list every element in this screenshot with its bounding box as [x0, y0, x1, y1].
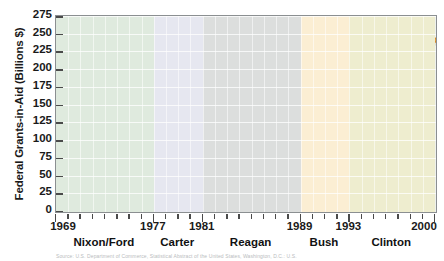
- x-tick-mark-minor: [128, 214, 129, 219]
- x-tick-mark-minor: [275, 214, 276, 219]
- y-tick-label: 225: [12, 43, 52, 55]
- gridline-vertical: [105, 16, 106, 212]
- y-tick-label: 125: [12, 114, 52, 126]
- gridline-horizontal: [56, 176, 436, 177]
- gridline-horizontal: [56, 122, 436, 123]
- era-label-nixon-ford: Nixon/Ford: [74, 236, 135, 248]
- x-tick-mark-minor: [79, 214, 80, 219]
- x-tick-mark-minor: [373, 214, 374, 219]
- source-caption: Source: U.S. Department of Commerce, Sta…: [56, 253, 297, 259]
- plot-area: [55, 15, 437, 213]
- gridline-vertical: [166, 16, 167, 212]
- gridline-vertical: [68, 16, 69, 212]
- gridline-vertical: [411, 16, 412, 212]
- y-tick-label: 200: [12, 61, 52, 73]
- x-tick-mark-minor: [238, 214, 239, 219]
- era-label-reagan: Reagan: [230, 236, 272, 248]
- x-tick-mark-minor: [67, 214, 68, 219]
- era-label-clinton: Clinton: [371, 236, 411, 248]
- gridline-vertical: [276, 16, 277, 212]
- x-tick-mark-minor: [336, 214, 337, 219]
- gridline-vertical: [117, 16, 118, 212]
- x-tick-mark-minor: [165, 214, 166, 219]
- x-tick-mark-minor: [189, 214, 190, 219]
- x-tick-mark-minor: [324, 214, 325, 219]
- x-tick-label: 1993: [336, 220, 362, 232]
- gridline-horizontal: [56, 193, 436, 194]
- y-tick-mark: [56, 51, 63, 53]
- gridline-vertical: [398, 16, 399, 212]
- gridline-vertical: [190, 16, 191, 212]
- gridline-vertical: [203, 16, 204, 212]
- era-label-bush: Bush: [310, 236, 339, 248]
- x-tick-mark-minor: [141, 214, 142, 219]
- gridline-vertical: [337, 16, 338, 212]
- y-tick-mark: [56, 34, 63, 36]
- chart-figure: Federal Grants-in-Aid (Billions $) 02550…: [0, 0, 444, 261]
- y-tick-label: 25: [12, 185, 52, 197]
- y-tick-label: 0: [12, 203, 52, 215]
- gridline-vertical: [325, 16, 326, 212]
- y-tick-label: 75: [12, 150, 52, 162]
- gridline-vertical: [423, 16, 424, 212]
- x-tick-mark-minor: [361, 214, 362, 219]
- y-tick-label: 175: [12, 79, 52, 91]
- x-tick-label: 1989: [287, 220, 313, 232]
- x-tick-mark-minor: [92, 214, 93, 219]
- gridline-vertical: [301, 16, 302, 212]
- x-tick-label: 1969: [50, 220, 76, 232]
- gridline-horizontal: [56, 105, 436, 106]
- gridline-vertical: [142, 16, 143, 212]
- y-tick-label: 275: [12, 8, 52, 20]
- y-tick-label: 50: [12, 168, 52, 180]
- y-tick-mark: [56, 122, 63, 124]
- x-tick-mark-minor: [397, 214, 398, 219]
- x-tick-mark-minor: [263, 214, 264, 219]
- x-tick-label: 2000: [411, 220, 437, 232]
- gridline-vertical: [374, 16, 375, 212]
- x-tick-mark-minor: [214, 214, 215, 219]
- x-tick-mark-minor: [226, 214, 227, 219]
- x-tick-mark-minor: [287, 214, 288, 219]
- y-tick-mark: [56, 87, 63, 89]
- gridline-vertical: [154, 16, 155, 212]
- gridline-vertical: [93, 16, 94, 212]
- x-tick-mark-minor: [177, 214, 178, 219]
- x-tick-mark-minor: [312, 214, 313, 219]
- gridline-horizontal: [56, 158, 436, 159]
- x-tick-label: 1977: [140, 220, 166, 232]
- y-tick-mark: [56, 193, 63, 195]
- gridline-horizontal: [56, 69, 436, 70]
- gridline-horizontal: [56, 16, 436, 17]
- x-tick-mark-minor: [385, 214, 386, 219]
- gridline-vertical: [288, 16, 289, 212]
- gridline-vertical: [215, 16, 216, 212]
- gridline-horizontal: [56, 51, 436, 52]
- gridline-vertical: [313, 16, 314, 212]
- era-label-carter: Carter: [160, 236, 194, 248]
- gridline-vertical: [227, 16, 228, 212]
- gridline-horizontal: [56, 34, 436, 35]
- y-tick-mark: [56, 158, 63, 160]
- x-tick-mark-minor: [116, 214, 117, 219]
- y-tick-mark: [56, 176, 63, 178]
- x-tick-label: 1981: [189, 220, 215, 232]
- x-tick-mark-minor: [251, 214, 252, 219]
- x-tick-mark-minor: [410, 214, 411, 219]
- gridline-vertical: [178, 16, 179, 212]
- gridline-vertical: [264, 16, 265, 212]
- x-tick-mark-minor: [422, 214, 423, 219]
- gridline-vertical: [362, 16, 363, 212]
- gridline-vertical: [252, 16, 253, 212]
- y-tick-mark: [56, 69, 63, 71]
- gridline-horizontal: [56, 140, 436, 141]
- y-tick-mark: [56, 140, 63, 142]
- y-tick-label: 250: [12, 26, 52, 38]
- gridline-vertical: [129, 16, 130, 212]
- gridline-vertical: [80, 16, 81, 212]
- gridline-vertical: [386, 16, 387, 212]
- gridline-horizontal: [56, 87, 436, 88]
- y-tick-mark: [56, 105, 63, 107]
- x-tick-mark-minor: [104, 214, 105, 219]
- gridline-vertical: [349, 16, 350, 212]
